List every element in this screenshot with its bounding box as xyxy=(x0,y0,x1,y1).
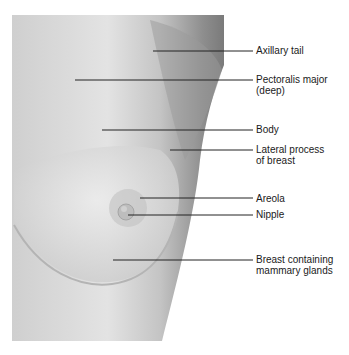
label-lateral-process: Lateral process of breast xyxy=(256,144,324,166)
label-nipple: Nipple xyxy=(256,209,284,220)
label-areola: Areola xyxy=(256,193,285,204)
anatomy-figure: Axillary tail Pectoralis major (deep) Bo… xyxy=(0,0,349,355)
label-breast-mammary-glands: Breast containing mammary glands xyxy=(256,254,333,276)
label-axillary-tail: Axillary tail xyxy=(256,45,304,56)
label-pectoralis-major: Pectoralis major (deep) xyxy=(256,74,328,96)
label-body: Body xyxy=(256,124,279,135)
